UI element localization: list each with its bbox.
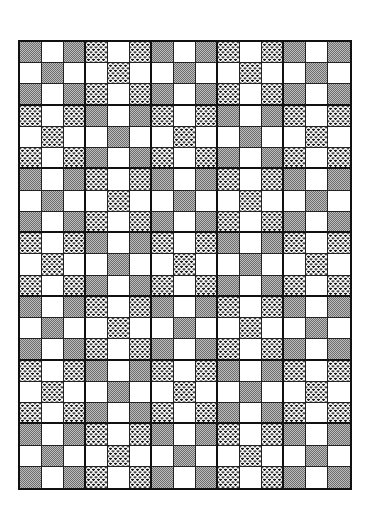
square-dotted <box>218 297 240 318</box>
square-gray-dither <box>196 84 218 105</box>
square-dotted <box>196 403 218 424</box>
square-white <box>218 63 240 84</box>
square-white <box>86 382 108 403</box>
square-dotted <box>262 42 284 63</box>
square-white <box>240 424 262 445</box>
square-gray-dither <box>284 169 306 190</box>
square-dotted <box>152 106 174 127</box>
square-white <box>42 361 64 382</box>
square-white <box>152 318 174 339</box>
square-gray-dither <box>86 403 108 424</box>
square-gray-dither <box>306 63 328 84</box>
square-white <box>174 148 196 169</box>
square-gray-dither <box>174 318 196 339</box>
square-gray-dither <box>64 169 86 190</box>
square-dotted <box>130 169 152 190</box>
square-gray-dither <box>174 63 196 84</box>
square-gray-dither <box>240 127 262 148</box>
square-dotted <box>306 127 328 148</box>
square-white <box>20 127 42 148</box>
square-white <box>174 297 196 318</box>
square-white <box>284 382 306 403</box>
square-dotted <box>86 212 108 233</box>
square-dotted <box>284 148 306 169</box>
square-gray-dither <box>20 42 42 63</box>
square-gray-dither <box>262 276 284 297</box>
square-gray-dither <box>42 318 64 339</box>
square-gray-dither <box>152 467 174 488</box>
square-gray-dither <box>64 42 86 63</box>
square-white <box>64 254 86 275</box>
square-white <box>328 446 350 467</box>
square-gray-dither <box>86 361 108 382</box>
square-white <box>152 63 174 84</box>
square-white <box>306 297 328 318</box>
square-dotted <box>130 424 152 445</box>
square-gray-dither <box>218 276 240 297</box>
square-gray-dither <box>130 276 152 297</box>
square-white <box>86 254 108 275</box>
square-gray-dither <box>86 148 108 169</box>
square-white <box>86 191 108 212</box>
square-white <box>108 84 130 105</box>
square-gray-dither <box>86 276 108 297</box>
square-white <box>306 42 328 63</box>
square-dotted <box>64 276 86 297</box>
square-gray-dither <box>108 382 130 403</box>
square-white <box>284 127 306 148</box>
square-white <box>174 403 196 424</box>
square-white <box>306 84 328 105</box>
square-gray-dither <box>42 63 64 84</box>
square-white <box>218 318 240 339</box>
square-white <box>284 63 306 84</box>
square-white <box>42 403 64 424</box>
square-white <box>42 212 64 233</box>
square-dotted <box>240 318 262 339</box>
square-gray-dither <box>196 169 218 190</box>
square-white <box>284 446 306 467</box>
square-white <box>174 467 196 488</box>
square-white <box>108 276 130 297</box>
square-white <box>108 297 130 318</box>
square-dotted <box>174 127 196 148</box>
square-dotted <box>86 42 108 63</box>
square-white <box>306 361 328 382</box>
square-white <box>174 276 196 297</box>
square-dotted <box>284 233 306 254</box>
square-white <box>174 212 196 233</box>
square-white <box>174 233 196 254</box>
square-dotted <box>328 106 350 127</box>
square-dotted <box>64 403 86 424</box>
square-white <box>284 191 306 212</box>
square-dotted <box>174 254 196 275</box>
square-white <box>174 42 196 63</box>
square-white <box>64 191 86 212</box>
square-gray-dither <box>42 446 64 467</box>
square-dotted <box>20 276 42 297</box>
square-white <box>196 318 218 339</box>
square-dotted <box>262 297 284 318</box>
square-dotted <box>174 382 196 403</box>
square-white <box>328 318 350 339</box>
square-gray-dither <box>328 467 350 488</box>
square-dotted <box>284 361 306 382</box>
square-white <box>196 446 218 467</box>
square-white <box>130 63 152 84</box>
square-dotted <box>108 318 130 339</box>
square-gray-dither <box>218 148 240 169</box>
square-white <box>240 361 262 382</box>
square-dotted <box>42 127 64 148</box>
square-gray-dither <box>20 84 42 105</box>
square-dotted <box>218 42 240 63</box>
square-gray-dither <box>20 169 42 190</box>
square-dotted <box>306 382 328 403</box>
square-white <box>240 169 262 190</box>
square-white <box>174 361 196 382</box>
square-gray-dither <box>20 467 42 488</box>
square-white <box>262 382 284 403</box>
square-dotted <box>328 148 350 169</box>
square-white <box>108 212 130 233</box>
square-white <box>174 169 196 190</box>
square-dotted <box>218 467 240 488</box>
square-white <box>240 403 262 424</box>
